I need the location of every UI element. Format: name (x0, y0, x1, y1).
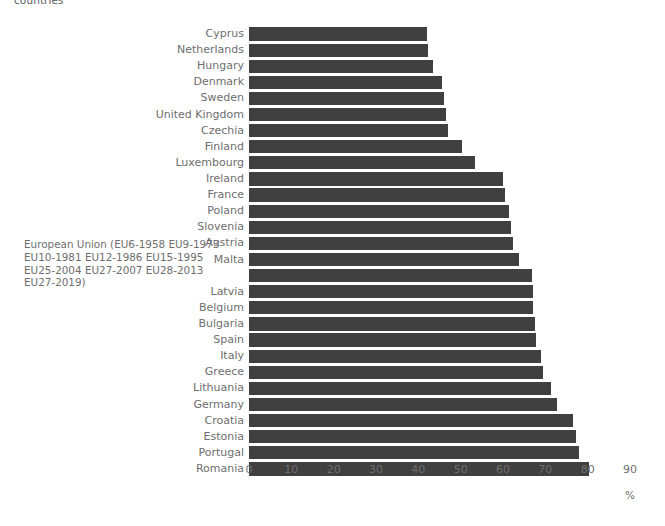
bar-row: Croatia (0, 413, 665, 429)
x-axis: 0102030405060708090 (0, 463, 665, 493)
category-label: Croatia (204, 413, 244, 429)
bar (249, 188, 505, 201)
category-label: Ireland (206, 171, 244, 187)
x-axis-tick: 20 (327, 463, 341, 476)
bar-row: Slovenia (0, 219, 665, 235)
category-label: Sweden (201, 90, 244, 106)
bar (249, 366, 543, 379)
x-axis-unit-label: % (625, 489, 635, 501)
category-label: Spain (213, 332, 244, 348)
bar (249, 92, 444, 105)
bar (249, 269, 532, 282)
bar-row: Belgium (0, 300, 665, 316)
bar (249, 446, 579, 459)
category-label: United Kingdom (156, 107, 244, 123)
bar-row: Cyprus (0, 26, 665, 42)
bar (249, 398, 557, 411)
bar (249, 156, 475, 169)
bar (249, 350, 541, 363)
category-label: Germany (193, 397, 244, 413)
bar-row: Greece (0, 364, 665, 380)
bar (249, 108, 446, 121)
bar (249, 333, 536, 346)
eu-annotation-label: European Union (EU6-1958 EU9-1973 EU10-1… (24, 238, 242, 289)
bar (249, 430, 576, 443)
bar (249, 140, 462, 153)
bar-row: Estonia (0, 429, 665, 445)
x-axis-tick: 40 (411, 463, 425, 476)
bar-row: Finland (0, 139, 665, 155)
category-label: Czechia (201, 123, 244, 139)
bar (249, 76, 442, 89)
bar-row: Hungary (0, 58, 665, 74)
bar-row: Italy (0, 348, 665, 364)
bar-row: Bulgaria (0, 316, 665, 332)
bar (249, 124, 448, 137)
bar (249, 60, 433, 73)
category-label: Bulgaria (198, 316, 244, 332)
bar-row: Spain (0, 332, 665, 348)
bar (249, 301, 533, 314)
x-axis-tick: 90 (623, 463, 637, 476)
x-axis-tick: 30 (369, 463, 383, 476)
bar-row: Netherlands (0, 42, 665, 58)
bar-row: Luxembourg (0, 155, 665, 171)
category-label: Denmark (193, 74, 244, 90)
bar-row: Portugal (0, 445, 665, 461)
bar (249, 253, 519, 266)
bar (249, 285, 533, 298)
category-label: Slovenia (197, 219, 244, 235)
bar-row: Sweden (0, 90, 665, 106)
x-axis-tick: 60 (496, 463, 510, 476)
x-axis-tick: 80 (581, 463, 595, 476)
bar (249, 382, 551, 395)
x-axis-tick: 0 (246, 463, 253, 476)
bar (249, 414, 573, 427)
category-label: Poland (207, 203, 244, 219)
category-label: Belgium (199, 300, 244, 316)
bar (249, 221, 511, 234)
category-label: Netherlands (177, 42, 244, 58)
x-axis-tick: 50 (454, 463, 468, 476)
bar (249, 317, 535, 330)
category-label: Lithuania (193, 380, 244, 396)
bar-row: United Kingdom (0, 107, 665, 123)
bar (249, 27, 427, 40)
x-axis-tick: 70 (538, 463, 552, 476)
bar-row: France (0, 187, 665, 203)
bar (249, 172, 503, 185)
category-label: Estonia (204, 429, 245, 445)
bar-row: Ireland (0, 171, 665, 187)
bar (249, 205, 509, 218)
bar-row: Lithuania (0, 380, 665, 396)
category-label: Greece (205, 364, 244, 380)
bar-row: Czechia (0, 123, 665, 139)
category-label: Luxembourg (175, 155, 244, 171)
page-title: countries (14, 0, 64, 6)
bar-chart: countries CyprusNetherlandsHungaryDenmar… (0, 0, 665, 526)
x-axis-tick: 10 (284, 463, 298, 476)
bar (249, 44, 428, 57)
category-label: Portugal (198, 445, 244, 461)
category-label: Italy (220, 348, 244, 364)
bar-row: Poland (0, 203, 665, 219)
category-label: Finland (205, 139, 244, 155)
bar-row: Denmark (0, 74, 665, 90)
category-label: Cyprus (206, 26, 244, 42)
category-label: Hungary (197, 58, 244, 74)
bar (249, 237, 513, 250)
bar-row: Germany (0, 397, 665, 413)
category-label: France (207, 187, 244, 203)
